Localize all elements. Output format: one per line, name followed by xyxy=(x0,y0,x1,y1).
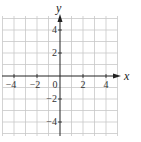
x-axis-label: x xyxy=(123,69,130,83)
x-tick-label: −4 xyxy=(6,79,17,90)
x-tick-label: 2 xyxy=(81,79,86,90)
y-axis-arrow-icon xyxy=(58,14,63,22)
coordinate-plane: −4 −2 0 2 4 4 2 −2 −4 x y xyxy=(0,0,141,142)
x-tick-label: −2 xyxy=(30,79,41,90)
y-tick-label: 2 xyxy=(52,47,57,58)
x-axis-arrow-icon xyxy=(113,74,121,79)
x-tick-label: 4 xyxy=(104,79,109,90)
y-axis-label: y xyxy=(55,1,62,15)
y-tick-label: −4 xyxy=(46,116,57,127)
x-axis xyxy=(2,74,121,79)
y-tick-label: −2 xyxy=(46,93,57,104)
x-tick-label: 0 xyxy=(53,79,58,90)
y-tick-label: 4 xyxy=(52,24,57,35)
y-axis xyxy=(58,14,63,136)
